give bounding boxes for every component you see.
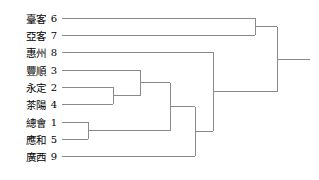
dendrogram-chart: 臺客6亞客7惠州8豐順3永定2茶陽4總會1應和5廣西9: [0, 0, 319, 180]
dendrogram-tree: [0, 0, 319, 180]
